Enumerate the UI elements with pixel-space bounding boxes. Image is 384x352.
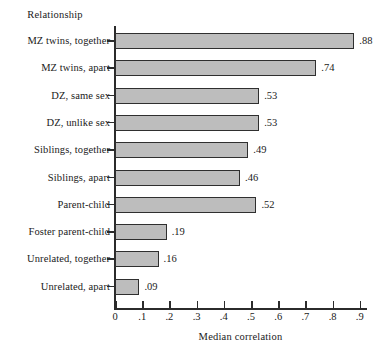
x-axis-title: Median correlation [114, 331, 367, 342]
category-label: Foster parent-child [0, 224, 110, 240]
bar-row: Unrelated, apart.09 [0, 279, 384, 295]
category-label: DZ, unlike sex [0, 115, 110, 131]
x-tick-label: .9 [347, 311, 373, 322]
bar-value-label: .88 [359, 33, 372, 49]
x-axis-line [114, 308, 367, 310]
category-label: Unrelated, apart [0, 279, 110, 295]
bar-row: Foster parent-child.19 [0, 224, 384, 240]
bar [115, 115, 259, 131]
bar [115, 170, 240, 186]
bar-value-label: .46 [245, 170, 258, 186]
bar-row: MZ twins, together.88 [0, 33, 384, 49]
x-tick-label: .1 [129, 311, 155, 322]
bar-value-label: .74 [321, 60, 334, 76]
x-tick-mark [142, 301, 144, 309]
bar [115, 88, 259, 104]
bar-row: Unrelated, together.16 [0, 251, 384, 267]
bar [115, 279, 139, 295]
bar [115, 224, 167, 240]
x-tick-mark [278, 301, 280, 309]
bar-value-label: .52 [261, 197, 274, 213]
bar-row: Siblings, apart.46 [0, 170, 384, 186]
x-tick-label: 0 [102, 311, 128, 322]
x-tick-mark [251, 301, 253, 309]
x-tick-label: .4 [211, 311, 237, 322]
x-tick-mark [115, 301, 117, 309]
bar [115, 197, 256, 213]
category-label: Unrelated, together [0, 251, 110, 267]
x-tick-mark [197, 301, 199, 309]
category-label: MZ twins, apart [0, 60, 110, 76]
category-label: Siblings, apart [0, 170, 110, 186]
bar-row: MZ twins, apart.74 [0, 60, 384, 76]
bar-value-label: .16 [164, 251, 177, 267]
x-tick-mark [360, 301, 362, 309]
x-tick-mark [169, 301, 171, 309]
x-tick-label: .5 [238, 311, 264, 322]
bar-row: DZ, same sex.53 [0, 88, 384, 104]
bar-value-label: .49 [253, 142, 266, 158]
category-axis-title: Relationship [0, 9, 110, 20]
x-tick-mark [333, 301, 335, 309]
bar-row: Parent-child.52 [0, 197, 384, 213]
x-tick-label: .8 [320, 311, 346, 322]
x-tick-label: .7 [292, 311, 318, 322]
category-label: Siblings, together [0, 142, 110, 158]
x-tick-mark [305, 301, 307, 309]
bar [115, 60, 316, 76]
bar-row: Siblings, together.49 [0, 142, 384, 158]
category-label: Parent-child [0, 197, 110, 213]
bar-value-label: .53 [264, 115, 277, 131]
bar-value-label: .19 [172, 224, 185, 240]
x-tick-label: .2 [156, 311, 182, 322]
bar [115, 33, 354, 49]
bar [115, 251, 159, 267]
bar-chart: Relationship MZ twins, together.88MZ twi… [0, 0, 384, 352]
bar-row: DZ, unlike sex.53 [0, 115, 384, 131]
bar-value-label: .09 [144, 279, 157, 295]
category-label: DZ, same sex [0, 88, 110, 104]
x-tick-label: .3 [184, 311, 210, 322]
x-tick-label: .6 [265, 311, 291, 322]
bar [115, 142, 248, 158]
x-tick-mark [224, 301, 226, 309]
bar-value-label: .53 [264, 88, 277, 104]
category-label: MZ twins, together [0, 33, 110, 49]
